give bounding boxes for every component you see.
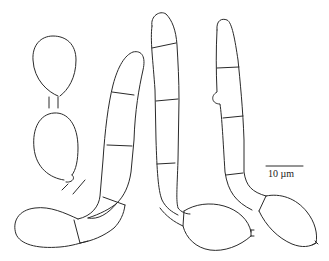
spore-lower — [34, 113, 85, 194]
conidia-drawing: 10 µm — [0, 0, 329, 261]
spore-upper — [33, 36, 76, 108]
germinating-conidium-right — [213, 19, 318, 246]
drawing-canvas — [0, 0, 329, 261]
scale-bar-label: 10 µm — [268, 168, 294, 179]
germinating-conidium-middle — [151, 13, 254, 251]
